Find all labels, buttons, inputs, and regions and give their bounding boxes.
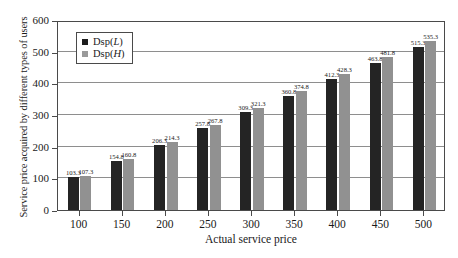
bar-dsp-l: [111, 161, 122, 210]
bar-value-label: 374.8: [284, 83, 318, 90]
x-axis-tick-label: 500: [393, 218, 453, 230]
bar-dsp-l: [154, 145, 165, 210]
x-axis-tick: [122, 211, 123, 216]
bar-dsp-l: [326, 79, 337, 210]
bar-dsp-h: [296, 91, 307, 210]
x-axis-tick: [79, 211, 80, 216]
x-axis-tick: [294, 211, 295, 216]
bar-dsp-h: [339, 74, 350, 210]
bar-value-label: 267.8: [198, 117, 232, 124]
bar-value-label: 428.3: [327, 66, 361, 73]
chart-legend: Dsp(L) Dsp(H): [76, 32, 133, 64]
bar-dsp-h: [210, 125, 221, 210]
y-axis-tick-label: 100: [3, 173, 49, 184]
y-axis-tick-label: 400: [3, 78, 49, 89]
bar-dsp-l: [197, 128, 208, 210]
legend-item-dsp-l: Dsp(L): [82, 36, 125, 48]
bar-dsp-l: [283, 96, 294, 210]
y-axis-tick-label: 600: [3, 15, 49, 26]
y-axis-tick-label: 500: [3, 47, 49, 58]
plot-area: 103.3107.3154.8160.8206.3214.3257.8267.8…: [57, 21, 445, 211]
y-axis-tick-label: 0: [3, 205, 49, 216]
x-axis-tick: [251, 211, 252, 216]
x-axis-title: Actual service price: [57, 233, 445, 245]
bar-value-label: 321.3: [241, 100, 275, 107]
bar-dsp-h: [123, 159, 134, 210]
y-axis-tick-label: 200: [3, 142, 49, 153]
legend-label-dsp-l: Dsp(L): [93, 36, 123, 48]
legend-label-dsp-h: Dsp(H): [93, 48, 125, 60]
x-axis-tick: [380, 211, 381, 216]
x-axis-tick: [423, 211, 424, 216]
bar-dsp-l: [413, 47, 424, 210]
x-axis-tick: [165, 211, 166, 216]
bar-dsp-l: [370, 63, 381, 210]
bar-value-label: 535.3: [414, 33, 448, 40]
bar-dsp-h: [167, 142, 178, 210]
bar-dsp-h: [80, 176, 91, 210]
bar-value-label: 107.3: [69, 168, 103, 175]
y-axis-tick-label: 300: [3, 110, 49, 121]
bar-value-label: 160.8: [112, 151, 146, 158]
bar-dsp-l: [240, 112, 251, 210]
legend-swatch-dsp-l: [82, 39, 88, 45]
x-axis-tick: [337, 211, 338, 216]
y-axis-tick: [52, 211, 57, 212]
bar-dsp-l: [68, 177, 79, 210]
legend-item-dsp-h: Dsp(H): [82, 48, 125, 60]
chart-figure: Service price acquired by different type…: [0, 0, 458, 258]
bar-value-label: 214.3: [155, 134, 189, 141]
bar-dsp-h: [253, 108, 264, 210]
legend-swatch-dsp-h: [82, 51, 88, 57]
bar-value-label: 481.8: [371, 49, 405, 56]
bar-dsp-h: [425, 41, 436, 211]
x-axis-tick: [208, 211, 209, 216]
bar-dsp-h: [382, 57, 393, 210]
